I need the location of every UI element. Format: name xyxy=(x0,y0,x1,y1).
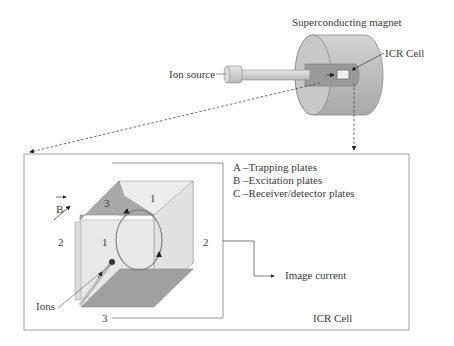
ion-dot xyxy=(109,259,115,265)
icr-cell-label: ICR Cell xyxy=(385,48,424,59)
plate-number-back: 1 xyxy=(150,193,156,204)
superconducting-magnet-label: Superconducting magnet xyxy=(292,17,402,28)
plate-number-top: 3 xyxy=(104,198,110,209)
dashed-connector-left xyxy=(30,83,320,152)
plate-number-right: 2 xyxy=(203,237,209,248)
icr-cell-caption: ICR Cell xyxy=(313,313,352,324)
legend-item-trapping: A –Trapping plates xyxy=(233,162,317,173)
image-current-label: Image current xyxy=(285,270,346,281)
b-field-label: B xyxy=(56,204,63,215)
plate-number-front: 1 xyxy=(102,237,108,248)
ions-label: Ions xyxy=(36,301,55,312)
plate-number-bottom: 3 xyxy=(102,313,108,324)
legend-item-receiver: C –Receiver/detector plates xyxy=(233,188,355,199)
plate-number-left: 2 xyxy=(58,237,64,248)
legend-item-excitation: B –Excitation plates xyxy=(233,175,322,186)
ion-source-label: Ion source xyxy=(169,69,215,80)
